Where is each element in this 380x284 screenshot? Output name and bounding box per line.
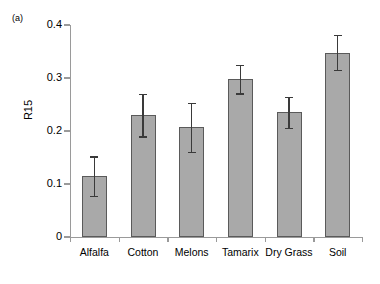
x-axis-label-melons: Melons bbox=[167, 246, 216, 258]
error-cap-2-lower bbox=[188, 152, 196, 153]
error-bar-1 bbox=[142, 94, 143, 136]
error-cap-4-lower bbox=[285, 128, 293, 129]
y-tick-label-1: 0.1 bbox=[47, 178, 62, 189]
error-cap-3-lower bbox=[236, 93, 244, 94]
error-bar-5 bbox=[337, 35, 338, 70]
y-tick-label-wrap-4: 0.4 bbox=[0, 19, 62, 30]
y-tick-label-3: 0.3 bbox=[47, 72, 62, 83]
bar-chart-figure: (a) R15 00.10.20.30.4 AlfalfaCottonMelon… bbox=[0, 0, 380, 284]
x-axis-label-cotton: Cotton bbox=[119, 246, 168, 258]
x-axis-label-dry-grass: Dry Grass bbox=[265, 246, 314, 258]
y-tick-label-4: 0.4 bbox=[47, 19, 62, 30]
error-cap-5-upper bbox=[334, 35, 342, 36]
bar-soil bbox=[325, 53, 350, 237]
error-bar-0 bbox=[94, 156, 95, 195]
y-tick-label-wrap-2: 0.2 bbox=[0, 125, 62, 136]
bar-tamarix bbox=[228, 79, 253, 237]
error-bar-4 bbox=[288, 97, 289, 128]
x-axis-label-soil: Soil bbox=[313, 246, 362, 258]
bar-dry-grass bbox=[277, 112, 302, 237]
error-bar-3 bbox=[240, 65, 241, 94]
y-tick-label-wrap-1: 0.1 bbox=[0, 178, 62, 189]
x-axis-label-tamarix: Tamarix bbox=[216, 246, 265, 258]
x-axis-label-alfalfa: Alfalfa bbox=[70, 246, 119, 258]
error-bar-2 bbox=[191, 103, 192, 152]
y-axis-line bbox=[70, 25, 71, 237]
y-tick-label-2: 0.2 bbox=[47, 125, 62, 136]
x-axis-line bbox=[70, 237, 362, 238]
error-cap-3-upper bbox=[236, 65, 244, 66]
error-cap-1-lower bbox=[139, 136, 147, 137]
y-tick-label-wrap-0: 0 bbox=[0, 231, 62, 242]
x-tick-end bbox=[362, 237, 363, 242]
error-cap-1-upper bbox=[139, 94, 147, 95]
y-tick-label-0: 0 bbox=[56, 231, 62, 242]
error-cap-0-lower bbox=[90, 196, 98, 197]
y-tick-label-wrap-3: 0.3 bbox=[0, 72, 62, 83]
error-cap-0-upper bbox=[90, 156, 98, 157]
error-cap-4-upper bbox=[285, 97, 293, 98]
error-cap-2-upper bbox=[188, 103, 196, 104]
error-cap-5-lower bbox=[334, 70, 342, 71]
